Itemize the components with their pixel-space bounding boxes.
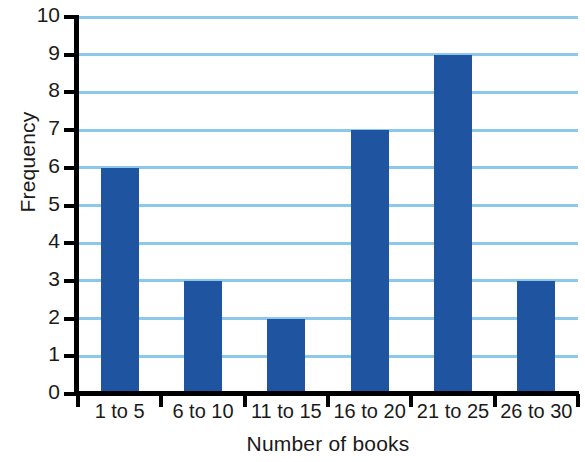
- gridline: [78, 317, 578, 320]
- y-tick-label: 7: [0, 116, 60, 140]
- y-tick-label: 10: [0, 3, 60, 27]
- y-tick-label: 3: [0, 267, 60, 291]
- gridline: [78, 242, 578, 245]
- x-tick-mark: [493, 394, 497, 407]
- bar: [267, 319, 305, 394]
- gridline: [78, 129, 578, 132]
- bar: [351, 130, 389, 394]
- gridline: [78, 355, 578, 358]
- x-tick-mark: [159, 394, 163, 407]
- x-axis-title: Number of books: [78, 432, 578, 456]
- x-tick-mark: [76, 394, 80, 407]
- gridline: [78, 279, 578, 282]
- y-tick-label: 6: [0, 154, 60, 178]
- plot-area: [78, 17, 578, 394]
- bar: [101, 168, 139, 394]
- bar: [434, 55, 472, 394]
- bar: [517, 281, 555, 394]
- y-axis-line: [74, 15, 79, 396]
- y-tick-label: 8: [0, 78, 60, 102]
- bar: [184, 281, 222, 394]
- gridline: [78, 204, 578, 207]
- y-tick-label: 5: [0, 192, 60, 216]
- gridline: [78, 16, 578, 19]
- y-tick-label: 2: [0, 305, 60, 329]
- bar-chart: Frequency 012345678910 1 to 56 to 1011 t…: [0, 0, 585, 462]
- y-tick-label: 0: [0, 380, 60, 404]
- y-tick-label: 1: [0, 342, 60, 366]
- gridline: [78, 166, 578, 169]
- y-tick-label: 4: [0, 229, 60, 253]
- y-tick-label: 9: [0, 41, 60, 65]
- x-tick-mark: [409, 394, 413, 407]
- x-tick-mark: [326, 394, 330, 407]
- gridline: [78, 53, 578, 56]
- x-tick-mark: [576, 394, 580, 407]
- gridline: [78, 91, 578, 94]
- x-tick-mark: [243, 394, 247, 407]
